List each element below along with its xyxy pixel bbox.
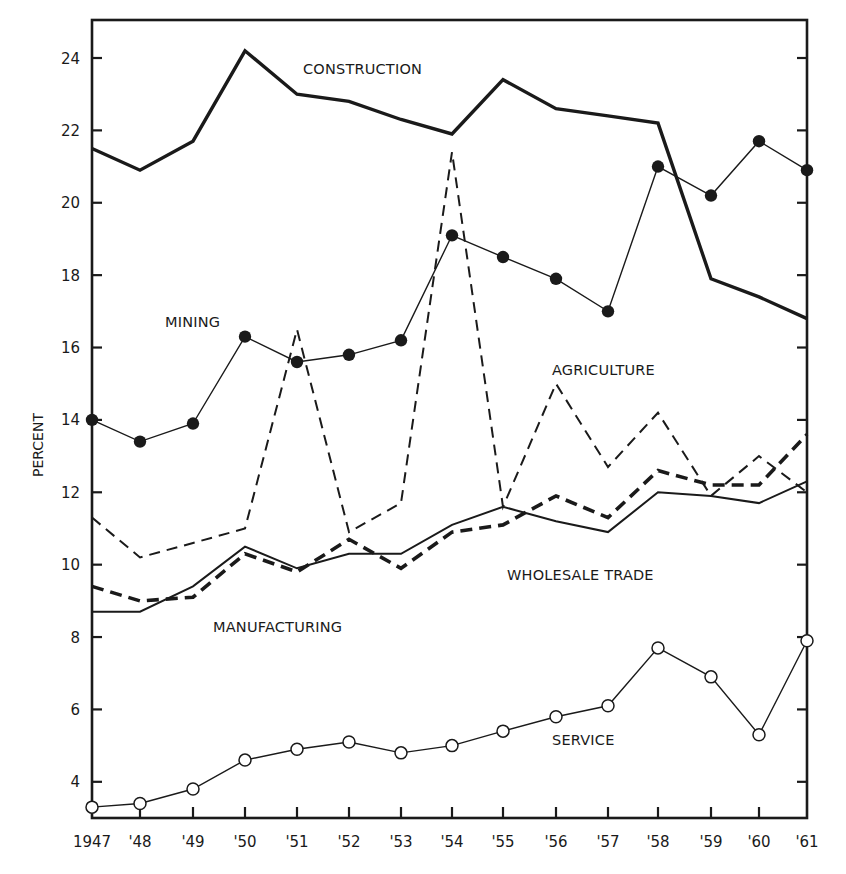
marker-filled-dot — [343, 349, 355, 361]
y-tick-label: 18 — [61, 267, 80, 285]
y-tick-label: 12 — [61, 484, 80, 502]
y-tick-label: 6 — [70, 701, 80, 719]
x-tick-label: '49 — [181, 833, 204, 851]
x-tick-label: '60 — [747, 833, 770, 851]
x-tick-label: '61 — [795, 833, 818, 851]
marker-open-circle — [497, 725, 509, 737]
series-label-service: SERVICE — [552, 732, 615, 748]
line-chart: 46810121416182022241947'48'49'50'51'52'5… — [0, 0, 846, 874]
marker-filled-dot — [291, 356, 303, 368]
x-tick-label: '52 — [337, 833, 360, 851]
marker-filled-dot — [134, 435, 146, 447]
x-tick-label: '57 — [596, 833, 619, 851]
marker-filled-dot — [497, 251, 509, 263]
y-tick-label: 22 — [61, 122, 80, 140]
series-label-manufacturing: MANUFACTURING — [213, 619, 342, 635]
x-tick-label: '55 — [491, 833, 514, 851]
x-tick-label: '48 — [128, 833, 151, 851]
marker-open-circle — [602, 700, 614, 712]
x-tick-label: '50 — [233, 833, 256, 851]
y-tick-label: 20 — [61, 194, 80, 212]
marker-filled-dot — [550, 273, 562, 285]
x-tick-label: 1947 — [73, 833, 111, 851]
y-tick-label: 24 — [61, 50, 80, 68]
x-tick-label: '54 — [440, 833, 463, 851]
y-tick-label: 4 — [70, 773, 80, 791]
series-label-agriculture: AGRICULTURE — [552, 362, 655, 378]
marker-open-circle — [239, 754, 251, 766]
marker-filled-dot — [239, 330, 251, 342]
marker-filled-dot — [602, 305, 614, 317]
marker-filled-dot — [753, 135, 765, 147]
marker-open-circle — [753, 729, 765, 741]
series-markers — [86, 135, 813, 813]
marker-open-circle — [134, 798, 146, 810]
marker-open-circle — [550, 711, 562, 723]
series-label-wholesale-trade: WHOLESALE TRADE — [507, 567, 654, 583]
x-tick-label: '58 — [646, 833, 669, 851]
marker-filled-dot — [395, 334, 407, 346]
y-axis-title: PERCENT — [30, 413, 46, 477]
series-line-wholesale-trade — [92, 434, 807, 601]
series-line-agriculture — [92, 152, 807, 557]
y-tick-label: 8 — [70, 629, 80, 647]
marker-open-circle — [343, 736, 355, 748]
x-tick-label: '56 — [544, 833, 567, 851]
marker-filled-dot — [705, 189, 717, 201]
x-tick-label: '59 — [699, 833, 722, 851]
x-tick-label: '53 — [389, 833, 412, 851]
series-line-mining — [92, 141, 807, 441]
chart-canvas: 46810121416182022241947'48'49'50'51'52'5… — [0, 0, 846, 874]
marker-open-circle — [652, 642, 664, 654]
series-labels: CONSTRUCTIONMININGAGRICULTUREWHOLESALE T… — [165, 61, 655, 748]
marker-open-circle — [801, 635, 813, 647]
marker-open-circle — [187, 783, 199, 795]
series-label-construction: CONSTRUCTION — [303, 61, 422, 77]
axes: 46810121416182022241947'48'49'50'51'52'5… — [61, 20, 819, 851]
marker-filled-dot — [187, 417, 199, 429]
marker-filled-dot — [801, 164, 813, 176]
y-tick-label: 10 — [61, 556, 80, 574]
series-label-mining: MINING — [165, 314, 220, 330]
series-lines — [92, 51, 807, 807]
marker-filled-dot — [446, 229, 458, 241]
y-tick-label: 16 — [61, 339, 80, 357]
marker-open-circle — [705, 671, 717, 683]
marker-filled-dot — [86, 414, 98, 426]
marker-open-circle — [446, 740, 458, 752]
series-line-construction — [92, 51, 807, 319]
y-tick-label: 14 — [61, 411, 80, 429]
x-tick-label: '51 — [285, 833, 308, 851]
marker-filled-dot — [652, 160, 664, 172]
plot-frame — [92, 20, 807, 818]
marker-open-circle — [395, 747, 407, 759]
marker-open-circle — [86, 801, 98, 813]
marker-open-circle — [291, 743, 303, 755]
series-line-manufacturing — [92, 481, 807, 611]
series-line-service — [92, 641, 807, 807]
